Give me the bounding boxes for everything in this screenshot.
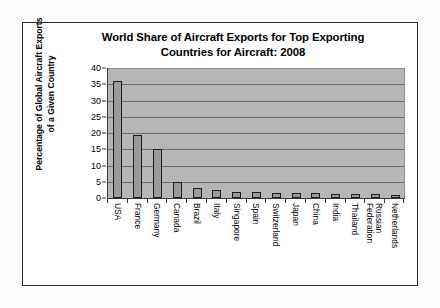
- y-axis-tick-label: 30: [91, 96, 101, 105]
- bar-slot: [207, 68, 227, 198]
- y-axis-title: Percentage of Global Aircraft Exports of…: [34, 14, 60, 174]
- bar-slot: [128, 68, 148, 198]
- x-axis-label-slot: USA: [107, 201, 127, 287]
- y-axis-tick-mark: [102, 198, 106, 199]
- x-axis-category-label-line: France: [132, 203, 142, 229]
- y-axis-tick-label: 0: [96, 194, 101, 203]
- y-axis-tick-mark: [102, 133, 106, 134]
- bar-series: [108, 68, 405, 198]
- bar-slot: [227, 68, 247, 198]
- bar[interactable]: [292, 193, 301, 198]
- x-axis-category-label-line: Netherlands: [390, 203, 400, 248]
- bar[interactable]: [371, 194, 380, 198]
- y-axis-tick-label: 10: [91, 161, 101, 170]
- x-axis-category-label: Japan: [290, 203, 299, 226]
- y-axis-tick-mark: [102, 84, 106, 85]
- bar-slot: [306, 68, 326, 198]
- x-axis-category-label: USA: [112, 203, 121, 220]
- bar[interactable]: [252, 192, 261, 198]
- x-axis-category-label-line: India: [330, 203, 340, 221]
- bar-slot: [326, 68, 346, 198]
- x-axis-label-slot: Spain: [246, 201, 266, 287]
- x-axis-label-slot: Thailand: [345, 201, 365, 287]
- x-axis-category-label: Thailand: [350, 203, 359, 235]
- x-axis-category-label-line: Singapore: [231, 203, 241, 241]
- x-axis-category-label-line: Federation: [365, 203, 374, 243]
- x-axis-label-slot: France: [127, 201, 147, 287]
- y-axis-title-line-2: of a Given Country: [46, 14, 58, 174]
- bar[interactable]: [173, 182, 182, 198]
- y-axis-tick-label: 5: [96, 177, 101, 186]
- plot-area: [107, 68, 405, 199]
- x-axis-category-label-line: Brazil: [192, 203, 202, 224]
- y-axis-tick-mark: [102, 181, 106, 182]
- x-axis-label-slot: India: [325, 201, 345, 287]
- x-axis-label-slot: Italy: [206, 201, 226, 287]
- y-axis-tick-label: 35: [91, 80, 101, 89]
- x-axis-category-label-line: Thailand: [350, 203, 360, 235]
- x-axis-label-slot: Netherlands: [384, 201, 404, 287]
- bar-slot: [286, 68, 306, 198]
- x-axis-category-label-line: USA: [113, 203, 123, 220]
- bar[interactable]: [311, 193, 320, 198]
- bar[interactable]: [193, 188, 202, 198]
- x-axis-label-slot: Canada: [166, 201, 186, 287]
- x-axis-category-label-line: Russian: [375, 203, 385, 233]
- x-axis-category-label: Singapore: [231, 203, 240, 241]
- chart-frame: World Share of Aircraft Exports for Top …: [22, 22, 418, 286]
- y-axis-tick-mark: [102, 68, 106, 69]
- bar-slot: [266, 68, 286, 198]
- bar[interactable]: [153, 149, 162, 198]
- x-axis-label-slot: Japan: [285, 201, 305, 287]
- bar[interactable]: [331, 194, 340, 198]
- bar[interactable]: [232, 192, 241, 198]
- x-axis-category-label: Canada: [172, 203, 181, 232]
- x-axis-label-slot: China: [305, 201, 325, 287]
- bar[interactable]: [212, 190, 221, 198]
- bar-slot: [148, 68, 168, 198]
- x-axis-category-label: India: [330, 203, 339, 221]
- x-axis-label-slot: Germany: [147, 201, 167, 287]
- x-axis-category-label-line: Germany: [152, 203, 162, 237]
- x-axis-category-label-line: China: [311, 203, 321, 225]
- plot-wrapper: 4035302520151050: [81, 68, 406, 216]
- bar[interactable]: [113, 81, 122, 198]
- y-axis-tick-mark: [102, 165, 106, 166]
- y-axis-tick-mark: [102, 100, 106, 101]
- y-axis-tick-label: 15: [91, 145, 101, 154]
- x-axis-category-label: RussianFederation: [365, 203, 384, 243]
- x-axis-category-label: Germany: [152, 203, 161, 237]
- x-axis-category-label: Italy: [211, 203, 220, 218]
- x-axis-label-slot: RussianFederation: [364, 201, 384, 287]
- y-axis-tick-label: 25: [91, 112, 101, 121]
- x-axis-category-label: Spain: [251, 203, 260, 224]
- x-axis-category-label-line: Canada: [172, 203, 182, 232]
- chart-title-line-1: World Share of Aircraft Exports for Top …: [102, 31, 365, 43]
- y-axis-tick-mark: [102, 116, 106, 117]
- bar-slot: [346, 68, 366, 198]
- bar-slot: [167, 68, 187, 198]
- y-axis-tick-mark: [102, 149, 106, 150]
- bar[interactable]: [272, 193, 281, 198]
- x-axis-category-labels: USAFranceGermanyCanadaBrazilItalySingapo…: [107, 201, 404, 287]
- bar[interactable]: [133, 135, 142, 198]
- x-axis-category-label-line: Switzerland: [271, 203, 281, 246]
- y-axis-tick-label: 40: [91, 64, 101, 73]
- x-axis-label-slot: Brazil: [186, 201, 206, 287]
- x-axis-label-slot: Switzerland: [265, 201, 285, 287]
- x-axis-category-label: France: [132, 203, 141, 229]
- y-axis-title-line-1: Percentage of Global Aircraft Exports: [34, 14, 46, 174]
- bar-slot: [365, 68, 385, 198]
- x-axis-category-label: Netherlands: [389, 203, 398, 248]
- x-axis-label-slot: Singapore: [226, 201, 246, 287]
- chart-title-line-2: Countries for Aircraft: 2008: [63, 45, 403, 60]
- bar[interactable]: [391, 195, 400, 198]
- x-axis-category-label-line: Spain: [251, 203, 261, 224]
- x-axis-category-label: Brazil: [191, 203, 200, 224]
- x-axis-category-label: Switzerland: [271, 203, 280, 246]
- bar-slot: [247, 68, 267, 198]
- x-axis-category-label: China: [310, 203, 319, 225]
- bar[interactable]: [351, 194, 360, 198]
- y-axis-tick-labels: 4035302520151050: [81, 68, 101, 198]
- bar-slot: [108, 68, 128, 198]
